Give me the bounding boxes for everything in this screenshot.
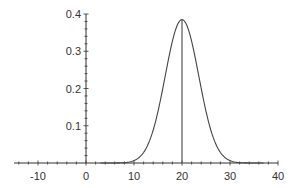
y-tick-label: 0.2 bbox=[66, 83, 81, 95]
y-tick-label: 0.4 bbox=[66, 8, 81, 20]
x-tick-label: 20 bbox=[176, 170, 188, 182]
x-tick-label: 40 bbox=[272, 170, 284, 182]
x-tick-label: -10 bbox=[30, 170, 46, 182]
x-tick-label: 0 bbox=[83, 170, 89, 182]
tick-labels: -100102030400.10.20.30.4 bbox=[30, 8, 284, 182]
y-tick-label: 0.3 bbox=[66, 45, 81, 57]
axes bbox=[14, 14, 278, 163]
x-tick-label: 30 bbox=[224, 170, 236, 182]
bell-curve-chart: -100102030400.10.20.30.4 bbox=[0, 0, 297, 188]
y-tick-label: 0.1 bbox=[66, 120, 81, 132]
x-tick-label: 10 bbox=[128, 170, 140, 182]
